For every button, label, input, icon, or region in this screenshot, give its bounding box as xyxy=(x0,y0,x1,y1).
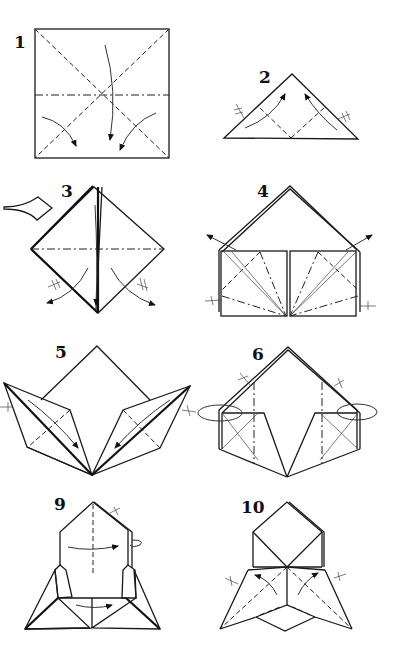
step-1: 1 xyxy=(14,29,169,158)
step-10-label: 10 xyxy=(241,497,265,517)
origami-diagram: 1 2 3 4 xyxy=(0,0,393,659)
step-3-label: 3 xyxy=(61,181,73,201)
view-arrow-icon xyxy=(4,197,52,220)
step-3: 3 xyxy=(4,181,164,313)
step-10: 10 xyxy=(220,497,352,631)
step-5-label: 5 xyxy=(55,342,67,362)
step-2: 2 xyxy=(224,67,358,139)
step-1-label: 1 xyxy=(14,32,26,52)
step-2-label: 2 xyxy=(259,67,271,87)
step-4-label: 4 xyxy=(257,181,269,201)
step-5: 5 xyxy=(0,342,196,475)
step-4: 4 xyxy=(205,181,376,316)
step-9: 9 xyxy=(25,494,160,629)
step-6-label: 6 xyxy=(252,344,264,364)
step-9-label: 9 xyxy=(54,494,66,514)
step-6: 6 xyxy=(198,344,377,477)
